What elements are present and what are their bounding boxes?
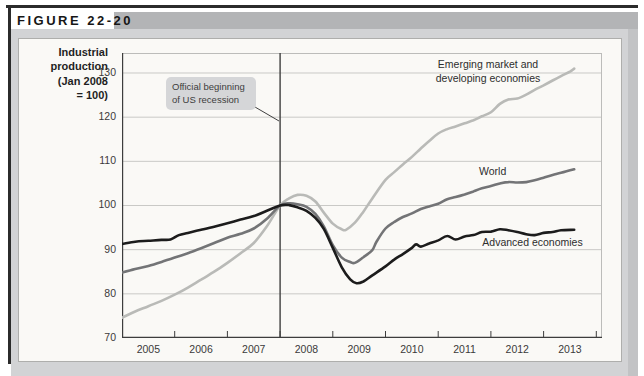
y-tick-label-90: 90 [86,243,116,255]
x-tick-label-2012: 2012 [506,343,529,355]
x-tick-label-2005: 2005 [137,343,160,355]
figure-header-band [114,12,638,29]
series-label-emerging: Emerging market and developing economies [432,58,544,85]
y-tick-label-70: 70 [86,331,116,343]
y-tick-label-80: 80 [86,287,116,299]
figure-number-label: FIGURE 22-20 [17,12,133,29]
x-tick-label-2007: 2007 [242,343,265,355]
series-line-1 [122,169,574,272]
x-tick-label-2009: 2009 [347,343,370,355]
x-tick-label-2006: 2006 [189,343,212,355]
series-label-world: World [479,165,506,177]
y-tick-label-110: 110 [86,154,116,166]
y-tick-label-100: 100 [86,198,116,210]
y-tick-label-130: 130 [86,66,116,78]
figure-top-rule [6,5,638,8]
x-tick-label-2008: 2008 [295,343,318,355]
figure-panel-edge [628,29,638,376]
recession-annotation: Official beginning of US recession [166,77,256,110]
y-tick-label-120: 120 [86,110,116,122]
x-tick-label-2013: 2013 [558,343,581,355]
x-tick-label-2011: 2011 [453,343,476,355]
series-label-advanced: Advanced economies [455,236,610,248]
figure-22-20: FIGURE 22-20 Industrial production (Jan … [0,0,644,376]
x-tick-label-2010: 2010 [400,343,423,355]
